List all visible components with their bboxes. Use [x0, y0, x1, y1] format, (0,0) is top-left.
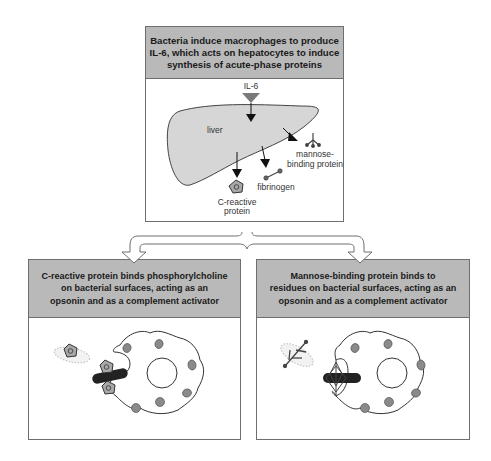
diagram-artwork: IL-6 liver mannose- binding protein fibr… [0, 0, 491, 461]
branch-arrows [122, 232, 372, 263]
crp-label-2: protein [224, 206, 250, 216]
arrow-icon [260, 159, 270, 168]
liver-shape [167, 105, 318, 186]
nucleus-icon [147, 358, 177, 388]
nucleus-icon [377, 358, 407, 388]
crp-pentagon-icon [100, 360, 113, 373]
mbl-label-2: binding protein [287, 159, 343, 169]
il6-label: IL-6 [244, 81, 259, 91]
left-macrophage-scene [53, 331, 204, 413]
fibrinogen-label: fibrinogen [257, 182, 295, 192]
fibrinogen-icon [264, 169, 282, 180]
c-reactive-protein-icon [229, 180, 243, 193]
liver-label: liver [207, 125, 223, 135]
il6-triangle-icon [242, 93, 260, 103]
mannose-binding-protein-icon [306, 133, 321, 147]
arrow-icon [232, 169, 242, 178]
right-macrophage-scene [277, 331, 425, 413]
crp-pentagon-icon [64, 344, 77, 357]
mbl-label-1: mannose- [296, 149, 334, 159]
